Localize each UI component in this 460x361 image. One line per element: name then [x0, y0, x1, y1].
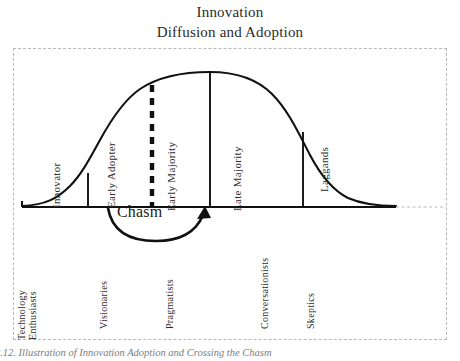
diffusion-curve-chart	[0, 0, 460, 361]
axis-label-technology-enthusiasts-line-2: Enthusiasts	[27, 290, 38, 340]
curve-label-early-majority: Early Majority	[165, 142, 177, 211]
curve-label-innovator: Innovator	[50, 163, 62, 208]
axis-label-technology-enthusiasts: Technology Enthusiasts	[16, 290, 38, 340]
curve-label-late-majority: Late Majority	[231, 146, 243, 211]
figure-caption: re 2.12. Illustration of Innovation Adop…	[0, 347, 460, 358]
axis-label-skeptics: Skeptics	[305, 293, 316, 329]
axis-label-conversationists: Conversationists	[259, 258, 270, 329]
curve-label-early-adopter: Early Adopter	[105, 142, 117, 208]
chasm-annotation-label: Chasm	[117, 203, 162, 221]
bell-curve-path	[22, 72, 396, 206]
axis-label-technology-enthusiasts-line-1: Technology	[16, 290, 27, 340]
axis-label-pragmatists: Pragmatists	[164, 279, 175, 329]
axis-label-visionaries: Visionaries	[98, 281, 109, 329]
curve-label-laggands: Laggands	[318, 147, 330, 192]
